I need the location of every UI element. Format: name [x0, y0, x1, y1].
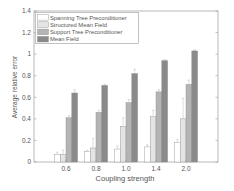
bar-3-2 — [132, 74, 138, 162]
y-tick-label: 0.8 — [22, 72, 31, 79]
bar-1-4 — [180, 119, 186, 162]
bar-2-0 — [66, 118, 72, 162]
bar-3-0 — [72, 93, 78, 162]
x-tick-label: 2.0 — [181, 165, 190, 172]
bar-2-3 — [156, 92, 162, 162]
x-tick-label: 0.6 — [61, 165, 70, 172]
bar-2-2 — [126, 103, 132, 162]
y-tick-label: 0.2 — [22, 137, 31, 144]
bar-0-4 — [174, 143, 180, 162]
x-tick-label: 1.0 — [121, 165, 130, 172]
bar-0-2 — [114, 149, 120, 162]
bar-3-3 — [162, 61, 168, 162]
legend-swatch-0 — [38, 15, 49, 21]
legend-label-3: Mean Field — [50, 36, 79, 42]
bar-2-4 — [186, 84, 192, 162]
y-tick-label: 1.4 — [22, 7, 31, 14]
x-tick-label: 1.4 — [151, 165, 160, 172]
legend-swatch-2 — [38, 29, 49, 35]
bar-1-2 — [120, 126, 126, 162]
y-axis-label: Average relative error — [11, 55, 19, 118]
legend: Spanning Tree PreconditionerStructured M… — [36, 13, 139, 44]
legend-label-2: Support Tree Preconditioner — [50, 29, 123, 35]
y-tick-label: 0.6 — [22, 94, 31, 101]
bar-chart: 00.20.40.60.811.21.4 0.60.81.01.42.0 Cou… — [0, 0, 234, 191]
bar-1-3 — [150, 117, 156, 162]
y-tick-label: 0 — [27, 158, 31, 165]
legend-label-1: Structured Mean Field — [50, 22, 107, 28]
y-tick-label: 1.2 — [22, 29, 31, 36]
y-tick-label: 1 — [27, 50, 31, 57]
bar-3-1 — [102, 85, 108, 162]
chart-canvas: 00.20.40.60.811.21.4 0.60.81.01.42.0 Cou… — [0, 0, 234, 191]
legend-swatch-3 — [38, 36, 49, 42]
y-tick-label: 0.4 — [22, 115, 31, 122]
bar-0-3 — [144, 147, 150, 162]
x-axis-label: Coupling strength — [96, 174, 155, 183]
bar-1-1 — [90, 148, 96, 162]
bar-1-0 — [60, 154, 66, 162]
bar-0-1 — [84, 151, 90, 162]
bar-2-1 — [96, 112, 102, 162]
x-tick-label: 0.8 — [91, 165, 100, 172]
bar-3-4 — [192, 51, 198, 162]
legend-label-0: Spanning Tree Preconditioner — [50, 15, 127, 21]
legend-swatch-1 — [38, 22, 49, 28]
bar-0-0 — [54, 154, 60, 162]
